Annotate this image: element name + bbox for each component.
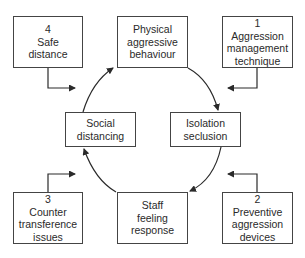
box-social-distancing: Social distancing (65, 112, 136, 147)
box-line: technique (235, 55, 281, 68)
box-line: Social (86, 117, 115, 130)
box-line: distance (28, 48, 67, 61)
arrow-staff-to-social (84, 149, 116, 192)
arrow-intervention-3 (48, 174, 75, 192)
box-line: transference (19, 218, 77, 231)
box-line: Counter (29, 206, 66, 219)
box-intervention-2: 2 Preventive aggression devices (222, 192, 293, 244)
intervention-number: 3 (45, 193, 51, 206)
arrow-intervention-4 (48, 68, 75, 88)
arrow-physical-to-isolation (188, 68, 218, 110)
box-line: management (227, 42, 288, 55)
box-staff-feeling-response: Staff feeling response (117, 192, 188, 244)
box-line: response (131, 224, 174, 237)
box-line: Preventive (233, 206, 283, 219)
arrow-intervention-1 (228, 68, 257, 88)
box-isolation-seclusion: Isolation seclusion (170, 112, 241, 147)
box-line: seclusion (184, 130, 228, 143)
arrow-social-to-physical (83, 68, 113, 112)
box-line: aggression (232, 218, 283, 231)
box-intervention-4: 4 Safe distance (13, 16, 83, 68)
box-line: aggressive (127, 36, 178, 49)
box-line: feeling (137, 212, 168, 225)
box-line: behaviour (129, 48, 175, 61)
box-line: Aggression (231, 30, 284, 43)
box-line: Physical (133, 23, 172, 36)
box-intervention-1: 1 Aggression management technique (222, 16, 293, 68)
box-intervention-3: 3 Counter transference issues (13, 192, 83, 244)
intervention-number: 4 (45, 23, 51, 36)
box-physical-aggressive-behaviour: Physical aggressive behaviour (117, 16, 188, 68)
box-line: Isolation (186, 117, 225, 130)
box-line: distancing (77, 130, 124, 143)
intervention-number: 1 (255, 17, 261, 30)
box-line: Staff (142, 199, 163, 212)
arrow-intervention-2 (228, 174, 257, 192)
box-line: issues (33, 231, 63, 244)
box-line: devices (240, 231, 276, 244)
intervention-number: 2 (255, 193, 261, 206)
box-line: Safe (37, 36, 59, 49)
arrow-isolation-to-staff (190, 147, 221, 191)
